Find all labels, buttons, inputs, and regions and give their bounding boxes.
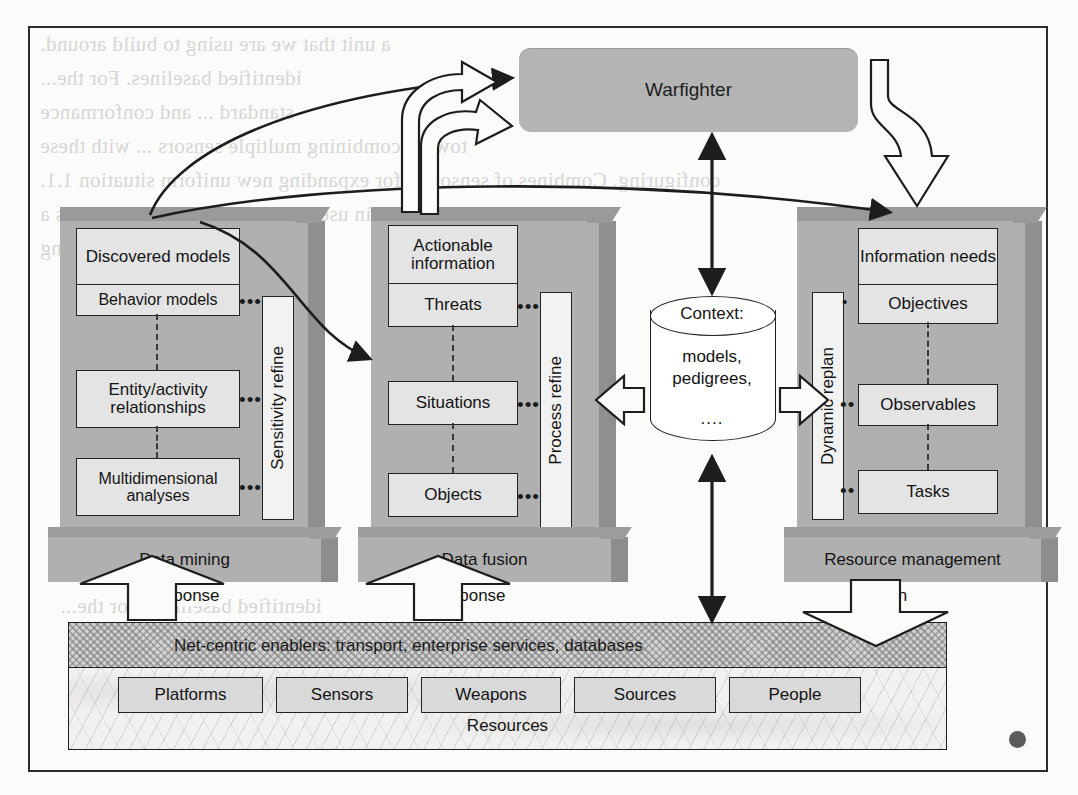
cell-connector-dashed bbox=[156, 314, 158, 370]
response-label-data-fusion: Response bbox=[427, 586, 508, 606]
cell-label: Observables bbox=[880, 396, 975, 414]
pedestal-resource-management: Resource management bbox=[784, 527, 1058, 583]
scan-artifact-dot bbox=[1009, 731, 1026, 748]
link-dots: ••• bbox=[239, 478, 262, 497]
pedestal-side bbox=[611, 537, 628, 582]
cell-connector-dashed bbox=[927, 424, 929, 470]
cell-label: Multidimensional analyses bbox=[77, 470, 239, 505]
link-dots: ••• bbox=[239, 292, 262, 311]
context-cylinder[interactable]: Context: models,pedigrees, .... bbox=[650, 296, 774, 454]
cell-connector-dashed bbox=[452, 423, 454, 473]
action-label: Action bbox=[858, 586, 909, 606]
cell-connector-dashed bbox=[927, 322, 929, 384]
cell-label: Situations bbox=[416, 394, 491, 412]
pedestal-data-fusion: Data fusion bbox=[358, 527, 628, 583]
context-body: models,pedigrees, bbox=[650, 346, 774, 390]
cell-threats[interactable]: Threats bbox=[388, 283, 518, 327]
cell-entity-activity-relationships[interactable]: Entity/activity relationships bbox=[76, 370, 240, 428]
pedestal-label: Data mining bbox=[139, 550, 230, 570]
cell-behavior-models[interactable]: Behavior models bbox=[76, 284, 240, 316]
link-dots: ••• bbox=[517, 297, 540, 316]
pedestal-face: Data mining bbox=[48, 537, 321, 582]
cell-actionable-information[interactable]: Actionable information bbox=[388, 225, 518, 285]
link-dots: • bbox=[842, 294, 848, 309]
warfighter-box[interactable]: Warfighter bbox=[519, 48, 858, 132]
dynamic-replan-label: Dynamic replan bbox=[818, 347, 838, 465]
resource-label: Sources bbox=[614, 685, 676, 705]
link-dots: •• bbox=[840, 395, 855, 414]
resource-label: People bbox=[769, 685, 822, 705]
cell-label: Information needs bbox=[860, 248, 996, 266]
process-refine-bar[interactable]: Process refine bbox=[540, 292, 572, 528]
pedestal-face: Resource management bbox=[784, 537, 1041, 582]
pillar-side-face bbox=[1025, 221, 1042, 527]
response-label-data-mining: Response bbox=[141, 586, 222, 606]
cell-label: Actionable information bbox=[389, 237, 517, 274]
pedestal-label: Data fusion bbox=[442, 550, 528, 570]
pedestal-side bbox=[1041, 537, 1058, 582]
cell-tasks[interactable]: Tasks bbox=[858, 470, 998, 514]
cell-connector-dashed bbox=[452, 325, 454, 381]
cell-discovered-models[interactable]: Discovered models bbox=[76, 228, 240, 286]
cell-situations[interactable]: Situations bbox=[388, 381, 518, 425]
link-dots: ••• bbox=[517, 395, 540, 414]
pedestal-face: Data fusion bbox=[358, 537, 611, 582]
cell-label: Entity/activity relationships bbox=[77, 381, 239, 418]
cell-label: Threats bbox=[424, 296, 482, 314]
cell-label: Behavior models bbox=[98, 291, 217, 308]
cell-label: Tasks bbox=[906, 483, 949, 501]
resource-box-platforms[interactable]: Platforms bbox=[118, 677, 263, 713]
resource-label: Platforms bbox=[155, 685, 227, 705]
sensitivity-refine-bar[interactable]: Sensitivity refine bbox=[262, 296, 294, 520]
resource-box-people[interactable]: People bbox=[729, 677, 861, 713]
context-title: Context: bbox=[650, 304, 774, 324]
figure-canvas: a unit that we are using to build around… bbox=[0, 0, 1078, 795]
cell-label: Objects bbox=[424, 486, 482, 504]
sensitivity-refine-label: Sensitivity refine bbox=[268, 346, 288, 470]
pedestal-side bbox=[321, 537, 338, 582]
resources-panel: Platforms Sensors Weapons Sources People… bbox=[68, 667, 947, 750]
link-dots: •• bbox=[840, 481, 855, 500]
pillar-top-face bbox=[60, 207, 308, 221]
resource-box-sensors[interactable]: Sensors bbox=[276, 677, 408, 713]
cell-label: Objectives bbox=[888, 295, 967, 313]
pillar-top-face bbox=[797, 207, 1025, 221]
net-centric-enablers-bar[interactable]: Net-centric enablers: transport, enterpr… bbox=[68, 622, 947, 669]
resource-box-sources[interactable]: Sources bbox=[574, 677, 716, 713]
link-dots: ••• bbox=[239, 390, 262, 409]
cell-connector-dashed bbox=[156, 426, 158, 458]
net-centric-enablers-label: Net-centric enablers: transport, enterpr… bbox=[69, 636, 643, 656]
cell-objectives[interactable]: Objectives bbox=[858, 284, 998, 324]
resource-label: Weapons bbox=[455, 685, 527, 705]
cell-observables[interactable]: Observables bbox=[858, 384, 998, 426]
context-ellipsis: .... bbox=[650, 409, 774, 429]
cell-objects[interactable]: Objects bbox=[388, 473, 518, 517]
cell-label: Discovered models bbox=[86, 248, 231, 266]
pillar-top-face bbox=[371, 207, 599, 221]
process-refine-label: Process refine bbox=[546, 356, 566, 465]
link-dots: ••• bbox=[517, 487, 540, 506]
warfighter-label: Warfighter bbox=[645, 79, 732, 101]
pillar-side-face bbox=[308, 221, 325, 527]
resource-label: Sensors bbox=[311, 685, 373, 705]
cell-multidimensional-analyses[interactable]: Multidimensional analyses bbox=[76, 458, 240, 516]
resource-box-weapons[interactable]: Weapons bbox=[421, 677, 561, 713]
pedestal-data-mining: Data mining bbox=[48, 527, 338, 583]
pedestal-label: Resource management bbox=[824, 550, 1001, 570]
resources-label: Resources bbox=[69, 716, 946, 736]
pillar-side-face bbox=[599, 221, 616, 527]
cell-information-needs[interactable]: Information needs bbox=[858, 228, 998, 286]
